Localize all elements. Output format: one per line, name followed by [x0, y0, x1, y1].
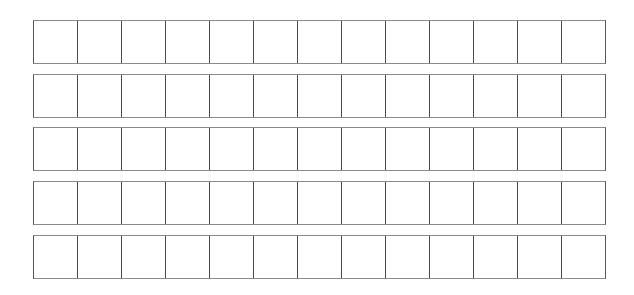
grid-cell [474, 236, 518, 278]
grid-cell [34, 128, 78, 170]
grid-cell [430, 21, 474, 63]
grid-cell [210, 182, 254, 224]
grid-row [33, 181, 606, 225]
grid-cell [34, 236, 78, 278]
grid-cell [298, 182, 342, 224]
grid-cell [254, 21, 298, 63]
grid-cell [518, 75, 562, 117]
grid-cell [166, 75, 210, 117]
grid-cell [254, 75, 298, 117]
grid-cell [34, 182, 78, 224]
grid-cell [122, 75, 166, 117]
grid-cell [254, 128, 298, 170]
grid-cell [34, 21, 78, 63]
grid-cell [386, 75, 430, 117]
grid-cell [430, 182, 474, 224]
grid-cell [254, 182, 298, 224]
grid-cell [386, 128, 430, 170]
grid-cell [298, 236, 342, 278]
grid-cell [122, 21, 166, 63]
grid-cell [474, 128, 518, 170]
grid-cell [430, 75, 474, 117]
grid-cell [78, 21, 122, 63]
grid-cell [386, 236, 430, 278]
grid-cell [562, 182, 605, 224]
grid-cell [166, 21, 210, 63]
grid-cell [78, 236, 122, 278]
grid-cell [298, 75, 342, 117]
grid-cell [562, 75, 605, 117]
grid-cell [562, 21, 605, 63]
grid-cell [122, 182, 166, 224]
grid-cell [518, 236, 562, 278]
grid-row [33, 20, 606, 64]
grid-row [33, 74, 606, 118]
grid-row [33, 127, 606, 171]
grid-cell [386, 182, 430, 224]
grid-cell [474, 21, 518, 63]
grid-cell [298, 21, 342, 63]
grid-cell [78, 128, 122, 170]
grid-cell [122, 128, 166, 170]
grid-cell [210, 236, 254, 278]
grid-cell [518, 128, 562, 170]
grid-cell [474, 75, 518, 117]
grid-cell [342, 128, 386, 170]
grid-row [33, 235, 606, 279]
grid-cell [342, 21, 386, 63]
grid-cell [386, 21, 430, 63]
grid-cell [34, 75, 78, 117]
grid-cell [298, 128, 342, 170]
grid-cell [562, 128, 605, 170]
grid-cell [78, 182, 122, 224]
grid-cell [342, 75, 386, 117]
grid-cell [166, 182, 210, 224]
grid-cell [166, 236, 210, 278]
grid-cell [342, 182, 386, 224]
grid-cell [430, 128, 474, 170]
grid-cell [210, 75, 254, 117]
grid-cell [562, 236, 605, 278]
grid-cell [430, 236, 474, 278]
grid-cell [518, 21, 562, 63]
grid-cell [166, 128, 210, 170]
grid-cell [78, 75, 122, 117]
grid-cell [210, 21, 254, 63]
grid-cell [210, 128, 254, 170]
grid-cell [342, 236, 386, 278]
grid-cell [518, 182, 562, 224]
grid-cell [122, 236, 166, 278]
grid-cell [254, 236, 298, 278]
grid-cell [474, 182, 518, 224]
